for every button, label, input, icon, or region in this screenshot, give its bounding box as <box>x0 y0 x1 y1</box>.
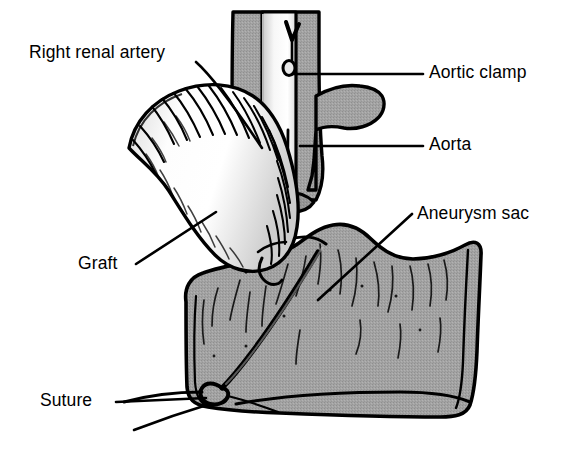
figure-root: Right renal artery Aortic clamp Aorta An… <box>0 0 566 450</box>
label-aortic-clamp: Aortic clamp <box>429 64 526 82</box>
label-graft: Graft <box>78 255 117 273</box>
label-right-renal-artery: Right renal artery <box>29 44 165 62</box>
label-suture: Suture <box>40 392 92 410</box>
label-aorta: Aorta <box>429 136 471 154</box>
label-aneurysm-sac: Aneurysm sac <box>417 205 529 223</box>
